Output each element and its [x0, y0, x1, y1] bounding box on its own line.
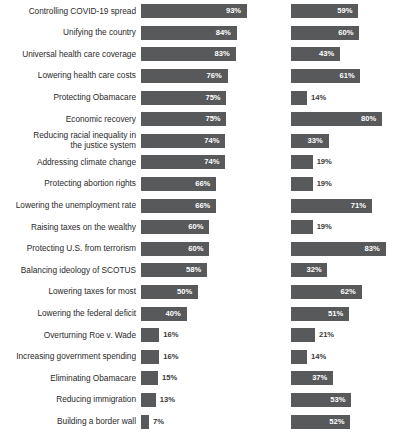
bar-value-right: 32%	[306, 266, 321, 274]
bar-value-left: 76%	[207, 72, 222, 80]
bar-track: 93%59%	[141, 1, 395, 23]
chart-row: Universal health care coverage83%43%	[0, 44, 395, 66]
category-label: Controlling COVID-19 spread	[0, 7, 141, 16]
chart-row: Protecting abortion rights66%19%	[0, 173, 395, 195]
bar-track: 16%14%	[141, 346, 395, 368]
bar-value-left: 60%	[188, 245, 203, 253]
category-label: Lowering the federal deficit	[0, 309, 141, 318]
chart-row: Controlling COVID-19 spread93%59%	[0, 1, 395, 23]
bar-value-left: 84%	[216, 29, 231, 37]
bar-value-right: 61%	[339, 72, 354, 80]
bar-track: 40%51%	[141, 303, 395, 325]
bar-value-left: 66%	[195, 180, 210, 188]
bar-value-right: 60%	[338, 29, 353, 37]
chart-row: Protecting Obamacare75%14%	[0, 87, 395, 109]
category-label: Lowering taxes for most	[0, 287, 141, 296]
bar-right	[291, 155, 313, 169]
chart-row: Increasing government spending16%14%	[0, 346, 395, 368]
bar-right	[291, 91, 307, 105]
category-label: Lowering health care costs	[0, 71, 141, 80]
bar-track: 16%21%	[141, 325, 395, 347]
category-label: Unifying the country	[0, 28, 141, 37]
bar-value-right: 14%	[311, 353, 326, 361]
bar-track: 74%19%	[141, 152, 395, 174]
bar-value-right: 62%	[341, 288, 356, 296]
bar-track: 15%37%	[141, 368, 395, 390]
bar-value-right: 19%	[317, 180, 332, 188]
bar-right	[291, 220, 313, 234]
chart-row: Overturning Roe v. Wade16%21%	[0, 325, 395, 347]
bar-value-right: 21%	[319, 331, 334, 339]
bar-value-right: 33%	[308, 137, 323, 145]
chart-row: Eliminating Obamacare15%37%	[0, 368, 395, 390]
bar-track: 7%52%	[141, 411, 395, 433]
chart-row: Unifying the country84%60%	[0, 22, 395, 44]
bar-left	[141, 393, 156, 407]
bar-value-left: 15%	[162, 374, 177, 382]
chart-row: Lowering taxes for most50%62%	[0, 281, 395, 303]
category-label: Economic recovery	[0, 115, 141, 124]
category-label: Protecting Obamacare	[0, 93, 141, 102]
bar-value-right: 51%	[328, 310, 343, 318]
bar-value-right: 59%	[337, 7, 352, 15]
chart-row: Building a border wall7%52%	[0, 411, 395, 433]
category-label: Balancing ideology of SCOTUS	[0, 266, 141, 275]
bar-value-left: 50%	[177, 288, 192, 296]
bar-value-left: 66%	[195, 202, 210, 210]
category-label: Reducing immigration	[0, 395, 141, 404]
bar-track: 75%80%	[141, 109, 395, 131]
chart-row: Reducing racial inequality in the justic…	[0, 130, 395, 152]
bar-track: 60%19%	[141, 217, 395, 239]
bar-value-left: 40%	[166, 310, 181, 318]
bar-value-right: 80%	[361, 115, 376, 123]
bar-track: 74%33%	[141, 130, 395, 152]
bar-value-left: 16%	[163, 353, 178, 361]
chart-row: Lowering the federal deficit40%51%	[0, 303, 395, 325]
bar-value-left: 58%	[186, 266, 201, 274]
bar-value-right: 53%	[330, 396, 345, 404]
category-label: Raising taxes on the wealthy	[0, 223, 141, 232]
bar-value-right: 43%	[319, 50, 334, 58]
bar-right	[291, 328, 315, 342]
chart-row: Reducing immigration13%53%	[0, 389, 395, 411]
bar-track: 60%83%	[141, 238, 395, 260]
chart-row: Lowering the unemployment rate66%71%	[0, 195, 395, 217]
bar-value-right: 19%	[317, 223, 332, 231]
chart-row: Protecting U.S. from terrorism60%83%	[0, 238, 395, 260]
grouped-bar-chart: Controlling COVID-19 spread93%59%Unifyin…	[0, 0, 395, 436]
bar-value-right: 37%	[312, 374, 327, 382]
bar-value-left: 74%	[204, 137, 219, 145]
bar-value-right: 83%	[365, 245, 380, 253]
bar-value-left: 75%	[205, 115, 220, 123]
bar-value-left: 7%	[153, 418, 164, 426]
bar-value-left: 13%	[160, 396, 175, 404]
category-label: Addressing climate change	[0, 158, 141, 167]
bar-track: 13%53%	[141, 389, 395, 411]
bar-value-left: 60%	[188, 223, 203, 231]
category-label: Protecting U.S. from terrorism	[0, 244, 141, 253]
category-label: Eliminating Obamacare	[0, 374, 141, 383]
bar-left	[141, 328, 159, 342]
bar-track: 83%43%	[141, 44, 395, 66]
category-label: Increasing government spending	[0, 352, 141, 361]
bar-value-right: 52%	[329, 418, 344, 426]
bar-value-right: 19%	[317, 158, 332, 166]
bar-track: 75%14%	[141, 87, 395, 109]
bar-value-left: 75%	[205, 94, 220, 102]
chart-row: Raising taxes on the wealthy60%19%	[0, 217, 395, 239]
bar-value-left: 16%	[163, 331, 178, 339]
chart-row: Lowering health care costs76%61%	[0, 65, 395, 87]
category-label: Protecting abortion rights	[0, 179, 141, 188]
bar-track: 84%60%	[141, 22, 395, 44]
bar-track: 66%71%	[141, 195, 395, 217]
bar-value-right: 14%	[311, 94, 326, 102]
bar-value-left: 74%	[204, 158, 219, 166]
chart-row: Economic recovery75%80%	[0, 109, 395, 131]
category-label: Building a border wall	[0, 417, 141, 426]
bar-track: 76%61%	[141, 65, 395, 87]
bar-track: 58%32%	[141, 260, 395, 282]
category-label: Reducing racial inequality in the justic…	[0, 131, 141, 150]
bar-left	[141, 350, 159, 364]
bar-track: 50%62%	[141, 281, 395, 303]
bar-track: 66%19%	[141, 173, 395, 195]
